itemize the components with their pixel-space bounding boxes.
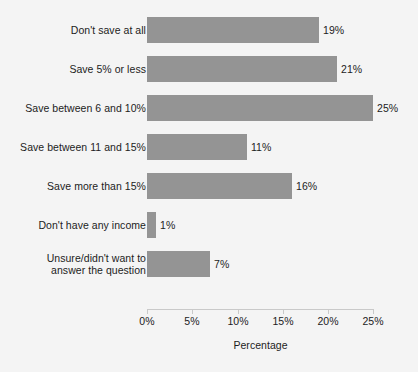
bar[interactable] [147, 56, 337, 82]
x-axis-tick-label: 0% [125, 315, 169, 327]
category-label: Save more than 15% [0, 173, 146, 199]
bar-value-label: 7% [210, 251, 229, 277]
bar-value-label: 21% [337, 56, 362, 82]
x-axis-tick [373, 310, 374, 314]
x-axis-tick-label: 10% [216, 315, 260, 327]
bar-value-label: 11% [247, 134, 271, 160]
x-axis-tick-label: 5% [170, 315, 214, 327]
bar-value-label: 25% [373, 95, 398, 121]
chart-row: Unsure/didn't want to answer the questio… [0, 251, 418, 277]
x-axis-tick [328, 310, 329, 314]
bar[interactable] [147, 212, 156, 238]
bar[interactable] [147, 95, 373, 121]
bar[interactable] [147, 251, 210, 277]
chart-row: Save between 6 and 10% 25% [0, 95, 418, 121]
x-axis-title: Percentage [147, 339, 374, 351]
bar-value-label: 16% [292, 173, 317, 199]
chart-row: Save between 11 and 15% 11% [0, 134, 418, 160]
category-label: Don't save at all [0, 17, 146, 43]
x-axis-tick [192, 310, 193, 314]
category-label: Save between 11 and 15% [0, 134, 146, 160]
bar-value-label: 19% [319, 17, 344, 43]
category-label: Unsure/didn't want to answer the questio… [0, 251, 146, 277]
category-label: Save between 6 and 10% [0, 95, 146, 121]
chart-row: Don't save at all 19% [0, 17, 418, 43]
x-axis-tick [238, 310, 239, 314]
bar[interactable] [147, 173, 292, 199]
chart-row: Save 5% or less 21% [0, 56, 418, 82]
x-axis-tick-label: 20% [306, 315, 350, 327]
x-axis-line [147, 309, 374, 310]
chart-row: Don't have any income 1% [0, 212, 418, 238]
chart-row: Save more than 15% 16% [0, 173, 418, 199]
x-axis-tick-label: 15% [261, 315, 305, 327]
x-axis-tick-label: 25% [351, 315, 395, 327]
bar[interactable] [147, 17, 319, 43]
x-axis-tick [283, 310, 284, 314]
category-label: Save 5% or less [0, 56, 146, 82]
bar-chart: Don't save at all 19% Save 5% or less 21… [0, 0, 418, 372]
category-label: Don't have any income [0, 212, 146, 238]
bar[interactable] [147, 134, 247, 160]
x-axis-tick [147, 310, 148, 314]
bar-value-label: 1% [156, 212, 175, 238]
